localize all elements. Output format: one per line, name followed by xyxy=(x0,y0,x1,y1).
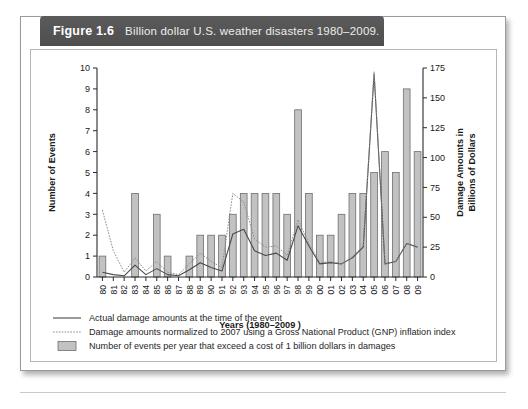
x-tick-label-90: 90 xyxy=(206,285,216,295)
y-tick-label-left: 4 xyxy=(85,189,90,199)
bar-92 xyxy=(229,214,236,277)
bar-series xyxy=(99,89,421,277)
y-tick-label-left: 2 xyxy=(85,230,90,240)
bar-00 xyxy=(316,235,323,277)
y-axis-title-left: Number of Events xyxy=(47,133,57,212)
legend-label-0: Actual damage amounts at the time of the… xyxy=(89,313,283,323)
y-tick-label-left: 1 xyxy=(85,251,90,261)
y-tick-label-left: 6 xyxy=(85,147,90,157)
x-tick-label-04: 04 xyxy=(358,285,368,295)
bar-97 xyxy=(284,214,291,277)
x-tick-label-84: 84 xyxy=(141,285,151,295)
x-tick-label-86: 86 xyxy=(163,285,173,295)
y-tick-label-right: 100 xyxy=(430,153,445,163)
bar-01 xyxy=(327,235,334,277)
bar-83 xyxy=(132,193,139,277)
x-tick-label-99: 99 xyxy=(304,285,314,295)
weather-disasters-chart: 0123456789100255075100125150175808182838… xyxy=(31,50,498,363)
x-tick-label-06: 06 xyxy=(380,285,390,295)
bar-95 xyxy=(262,193,269,277)
x-tick-label-08: 08 xyxy=(402,285,412,295)
x-tick-label-00: 00 xyxy=(315,285,325,295)
legend-marker-bar-swatch xyxy=(58,342,76,351)
x-tick-label-93: 93 xyxy=(239,285,249,295)
chart-legend: Actual damage amounts at the time of the… xyxy=(53,313,456,351)
y-tick-label-right: 50 xyxy=(430,212,440,222)
x-tick-label-83: 83 xyxy=(130,285,140,295)
x-tick-label-88: 88 xyxy=(185,285,195,295)
bar-96 xyxy=(273,193,280,277)
x-tick-label-85: 85 xyxy=(152,285,162,295)
y-tick-label-left: 5 xyxy=(85,168,90,178)
figure-screenshot: Figure 1.6 Billion dollar U.S. weather d… xyxy=(0,0,528,409)
y-tick-label-left: 8 xyxy=(85,105,90,115)
x-tick-label-87: 87 xyxy=(174,285,184,295)
x-tick-label-05: 05 xyxy=(369,285,379,295)
x-tick-label-82: 82 xyxy=(119,285,129,295)
x-tick-label-09: 09 xyxy=(413,285,423,295)
bar-93 xyxy=(240,193,247,277)
bar-05 xyxy=(371,173,378,278)
page-rule xyxy=(20,392,506,393)
y-tick-label-right: 175 xyxy=(430,63,445,73)
x-tick-label-80: 80 xyxy=(98,285,108,295)
bar-80 xyxy=(99,256,106,277)
y-axis-title-right-line1: Damage Amounts in xyxy=(455,128,465,217)
x-tick-label-89: 89 xyxy=(195,285,205,295)
figure-card: Figure 1.6 Billion dollar U.S. weather d… xyxy=(20,16,506,371)
x-tick-label-92: 92 xyxy=(228,285,238,295)
bar-90 xyxy=(208,235,215,277)
x-tick-label-07: 07 xyxy=(391,285,401,295)
y-tick-label-right: 125 xyxy=(430,123,445,133)
line-actual xyxy=(102,74,417,276)
bar-99 xyxy=(306,193,313,277)
x-tick-label-01: 01 xyxy=(326,285,336,295)
bar-85 xyxy=(153,214,160,277)
figure-caption: Billion dollar U.S. weather disasters 19… xyxy=(125,25,379,37)
x-tick-label-98: 98 xyxy=(293,285,303,295)
x-tick-label-81: 81 xyxy=(109,285,119,295)
y-axis-title-right-line2: Billions of Dollars xyxy=(467,133,477,211)
x-tick-label-94: 94 xyxy=(250,285,260,295)
y-tick-label-right: 0 xyxy=(430,272,435,282)
y-tick-label-right: 75 xyxy=(430,183,440,193)
bar-03 xyxy=(349,193,356,277)
y-tick-label-left: 9 xyxy=(85,84,90,94)
line-normalized xyxy=(102,72,417,275)
figure-inner-plate: 0123456789100255075100125150175808182838… xyxy=(30,49,497,362)
x-tick-label-97: 97 xyxy=(282,285,292,295)
x-tick-label-91: 91 xyxy=(217,285,227,295)
bar-02 xyxy=(338,214,345,277)
x-tick-label-03: 03 xyxy=(348,285,358,295)
bar-98 xyxy=(295,110,302,277)
bar-94 xyxy=(251,193,258,277)
y-tick-label-right: 25 xyxy=(430,242,440,252)
legend-label-2: Number of events per year that exceed a … xyxy=(89,341,396,351)
x-tick-label-96: 96 xyxy=(272,285,282,295)
y-tick-label-left: 0 xyxy=(85,272,90,282)
bar-08 xyxy=(403,89,410,277)
y-tick-label-right: 150 xyxy=(430,93,445,103)
x-tick-label-95: 95 xyxy=(261,285,271,295)
y-tick-label-left: 10 xyxy=(80,63,90,73)
y-tick-label-left: 3 xyxy=(85,210,90,220)
y-tick-label-left: 7 xyxy=(85,126,90,136)
figure-number: Figure 1.6 xyxy=(53,24,114,38)
chart-plot-area: 0123456789100255075100125150175808182838… xyxy=(31,50,498,363)
chart-root: 0123456789100255075100125150175808182838… xyxy=(47,63,477,351)
x-tick-label-02: 02 xyxy=(337,285,347,295)
legend-label-1: Damage amounts normalized to 2007 using … xyxy=(89,327,456,337)
figure-header: Figure 1.6 Billion dollar U.S. weather d… xyxy=(40,16,384,46)
bar-09 xyxy=(414,152,421,277)
